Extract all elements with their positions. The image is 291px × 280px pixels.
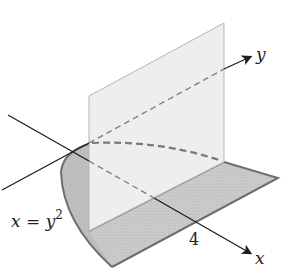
x-axis-label: x xyxy=(255,248,265,268)
x-axis-back xyxy=(8,115,89,161)
x-tick-4: 4 xyxy=(189,230,199,249)
diagram-canvas: y x 4 x = y2 xyxy=(0,0,291,280)
curve-label: x = y2 xyxy=(11,208,63,231)
y-axis-label: y xyxy=(255,44,266,64)
y-axis-back xyxy=(224,57,250,69)
